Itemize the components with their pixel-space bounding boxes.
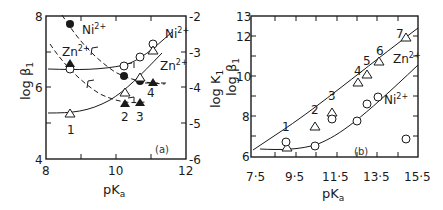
a-panel-tag: (a) (155, 144, 169, 155)
b-num-6: 6 (376, 44, 384, 58)
figure: 8 6 4 -2 -3 -4 -5 -6 8 10 12 pKa log β1 … (0, 0, 443, 210)
a-yrtick-2: -2 (189, 10, 201, 24)
b-ytick-6: 6 (242, 150, 250, 164)
b-xlabel: pKa (322, 186, 344, 203)
b-ylabel: log β1 (224, 58, 241, 96)
b-num-2: 2 (311, 103, 319, 117)
a-num-3: 3 (136, 110, 144, 124)
a-ni-label-k: Ni2+ (82, 22, 106, 37)
b-xtick-15.5: 15·5 (404, 170, 431, 184)
a-xlabel: pKa (103, 182, 125, 199)
b-ytick-8: 8 (242, 110, 250, 124)
a-yrtick-5: -5 (189, 117, 201, 131)
b-xtick-7.5: 7·5 (246, 170, 265, 184)
a-num-1: 1 (67, 123, 75, 137)
a-ytick-6: 6 (35, 81, 43, 95)
a-ylabel-right: log K1 (208, 70, 225, 108)
a-zn-beta-curve (48, 53, 162, 113)
b-xtick-11.5: 11·5 (322, 170, 349, 184)
b-zn-label: Zn2+ (393, 51, 421, 66)
panel-a: 8 6 4 -2 -3 -4 -5 -6 8 10 12 pKa log β1 … (18, 10, 225, 199)
a-yrtick-4: -4 (189, 81, 201, 95)
a-num-4: 4 (147, 86, 155, 100)
panel-b: 13 12 10 8 6 7·5 9·5 11·5 13·5 15·5 pKa … (224, 10, 431, 203)
b-ni-curve (260, 65, 418, 149)
b-panel-tag: (b) (354, 146, 368, 157)
b-num-3: 3 (328, 89, 336, 103)
b-num-1: 1 (282, 120, 290, 134)
a-xtick-8: 8 (42, 164, 50, 178)
b-ytick-12: 12 (236, 30, 251, 44)
a-yrtick-3: -3 (189, 46, 201, 60)
a-num-2: 2 (121, 110, 129, 124)
b-num-4: 4 (354, 64, 362, 78)
a-zn-label-beta: Zn2+ (160, 58, 188, 73)
a-xtick-10: 10 (108, 164, 123, 178)
b-num-7: 7 (396, 27, 404, 41)
a-xtick-12: 12 (178, 164, 193, 178)
b-num-5: 5 (363, 54, 371, 68)
b-ni-label: Ni2+ (384, 92, 408, 107)
a-ylabel-left: log β1 (18, 62, 35, 100)
b-xtick-13.5: 13·5 (363, 170, 390, 184)
a-ytick-8: 8 (35, 10, 43, 24)
a-zn-label-k: Zn2+ (62, 44, 90, 59)
b-xtick-9.5: 9·5 (285, 170, 304, 184)
b-ytick-13: 13 (236, 10, 251, 24)
